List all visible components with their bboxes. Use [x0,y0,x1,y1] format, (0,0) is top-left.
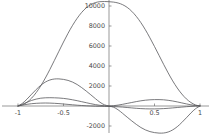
chart-svg: -1-0.50.51 -2000200040006000800010000 [0,0,212,138]
y-axis-ticks [109,6,112,126]
x-tick-label: 1 [198,109,202,117]
y-tick-label: -2000 [86,122,105,130]
y-tick-label: 10000 [85,2,105,10]
y-tick-label: 6000 [89,42,105,50]
x-tick-label: 0.5 [149,109,159,117]
axes-group [2,0,209,133]
y-tick-label: 2000 [89,82,105,90]
y-axis-tick-labels: -2000200040006000800010000 [85,2,105,130]
x-tick-label: -0.5 [57,109,69,117]
chart-plot: -1-0.50.51 -2000200040006000800010000 [0,0,212,138]
y-tick-label: 4000 [89,62,105,70]
y-tick-label: 8000 [89,22,105,30]
x-tick-label: -1 [15,109,21,117]
x-axis-tick-labels: -1-0.50.51 [15,109,202,117]
